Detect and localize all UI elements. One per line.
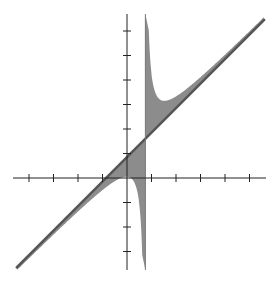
oblique-asymptote-line — [17, 20, 264, 267]
function-plot — [0, 0, 275, 283]
